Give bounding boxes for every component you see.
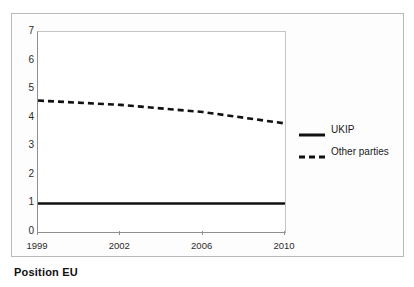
y-tick-label: 3 — [18, 140, 34, 150]
legend-swatch-solid-icon — [299, 125, 325, 133]
legend-item-other-parties: Other parties — [299, 140, 399, 162]
x-tick-mark — [119, 231, 120, 235]
y-tick-label: 4 — [18, 112, 34, 122]
y-tick-label: 7 — [18, 26, 34, 36]
x-tick-label: 1999 — [26, 241, 47, 251]
series-line-other-parties — [38, 101, 285, 124]
chart-figure-frame: 76543210 1999200220062010 UKIPOther part… — [11, 13, 404, 257]
legend-label: UKIP — [331, 124, 354, 135]
y-tick-label: 1 — [18, 197, 34, 207]
x-tick-label: 2010 — [273, 241, 294, 251]
legend-label: Other parties — [331, 146, 389, 157]
legend-swatch-dashed-icon — [299, 147, 325, 155]
y-tick-label: 0 — [18, 226, 34, 236]
x-tick-label: 2002 — [109, 241, 130, 251]
y-tick-label: 5 — [18, 83, 34, 93]
chart-legend: UKIPOther parties — [299, 118, 399, 162]
x-tick-mark — [202, 231, 203, 235]
plot-area — [37, 31, 286, 233]
x-tick-mark — [37, 231, 38, 235]
y-tick-label: 6 — [18, 55, 34, 65]
x-tick-label: 2006 — [191, 241, 212, 251]
series-canvas — [38, 32, 285, 232]
figure-caption: Position EU — [14, 266, 78, 278]
y-tick-label: 2 — [18, 169, 34, 179]
legend-item-ukip: UKIP — [299, 118, 399, 140]
x-axis: 1999200220062010 — [37, 238, 284, 252]
x-tick-mark — [284, 231, 285, 235]
y-axis: 76543210 — [16, 14, 34, 258]
